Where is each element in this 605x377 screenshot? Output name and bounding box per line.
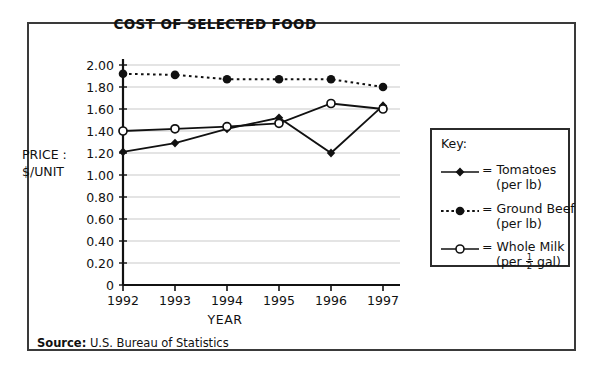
legend-marker-filled-circle-icon [440,204,480,218]
series-point-ground-beef [119,70,128,79]
source-text: U.S. Bureau of Statistics [90,336,229,350]
x-axis-tick-label: 1994 [211,293,243,308]
y-axis-tick-label: 0 [106,278,114,293]
legend-sub-tomatoes: (per lb) [496,177,542,192]
y-axis-tick-label: 0.80 [86,190,114,205]
source-label: Source: [37,336,86,350]
y-axis-tick-label: 1.80 [86,80,114,95]
legend-sub-prefix: (per [496,254,526,269]
series-point-whole-milk [275,119,283,127]
series-point-whole-milk [171,125,179,133]
legend-label-ground-beef: = Ground Beef [482,201,575,216]
x-axis-label: YEAR [95,312,355,327]
series-point-ground-beef [171,71,180,80]
legend-sub-ground-beef: (per lb) [496,216,542,231]
legend-marker-open-circle-icon [440,242,480,256]
legend-label-tomatoes: = Tomatoes [482,162,556,177]
series-line-whole-milk [123,104,383,132]
y-axis-tick-label: 1.60 [86,102,114,117]
fraction-denominator: 2 [526,262,533,270]
y-axis-label-line2: $/UNIT [22,164,64,179]
series-point-ground-beef [327,75,336,84]
y-axis-tick-label: 1.40 [86,124,114,139]
legend-title: Key: [441,136,467,151]
series-point-ground-beef [379,83,388,92]
series-point-whole-milk [223,123,231,131]
series-point-tomatoes [119,148,127,157]
series-point-tomatoes [171,139,179,148]
x-axis-tick-label: 1992 [107,293,139,308]
x-axis-tick-label: 1995 [263,293,295,308]
legend-label-whole-milk: = Whole Milk [482,239,564,254]
legend-marker-filled-diamond-icon [440,165,480,179]
legend-sub-whole-milk: (per 12 gal) [496,254,561,271]
legend: Key: = Tomatoes (per lb) = Ground Beef (… [430,128,570,267]
series-point-whole-milk [327,100,335,108]
y-axis-label: PRICE :$/UNIT [22,146,94,180]
source-note: Source: U.S. Bureau of Statistics [37,336,229,350]
x-axis-tick-label: 1996 [315,293,347,308]
legend-sub-suffix: gal) [533,254,561,269]
x-axis-tick-label: 1993 [159,293,191,308]
y-axis-tick-label: 0.20 [86,256,114,271]
x-axis-tick-label: 1997 [367,293,399,308]
fraction-half: 12 [526,253,533,270]
y-axis-label-line1: PRICE : [22,147,67,162]
series-point-ground-beef [223,75,232,84]
chart-figure: COST OF SELECTED FOOD 00.200.400.600.801… [0,0,605,377]
series-point-whole-milk [379,105,387,113]
series-point-whole-milk [119,127,127,135]
y-axis-tick-label: 2.00 [86,58,114,73]
series-point-ground-beef [275,75,284,84]
series-line-ground-beef [123,74,383,87]
y-axis-tick-label: 0.60 [86,212,114,227]
y-axis-tick-label: 0.40 [86,234,114,249]
